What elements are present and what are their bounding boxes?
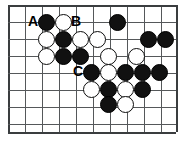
black-stone xyxy=(55,48,72,65)
board-edge-horizontal xyxy=(8,5,176,7)
white-stone xyxy=(89,31,106,48)
black-stone xyxy=(38,14,55,31)
board-edge-vertical xyxy=(8,5,10,132)
black-stone xyxy=(134,81,151,98)
black-stone xyxy=(100,81,117,98)
board-edge-vertical xyxy=(176,5,178,132)
white-stone xyxy=(38,31,55,48)
board-surface: ABC xyxy=(0,0,184,145)
white-stone xyxy=(38,48,55,65)
grid-line-horizontal xyxy=(8,56,176,57)
black-stone xyxy=(109,14,126,31)
black-stone xyxy=(72,48,89,65)
white-stone xyxy=(117,81,134,98)
white-stone xyxy=(100,64,117,81)
board-edge-horizontal xyxy=(8,132,176,134)
white-stone xyxy=(117,96,134,113)
grid-line-horizontal xyxy=(8,124,176,125)
marker-label-c: C xyxy=(71,64,85,78)
white-stone xyxy=(128,48,145,65)
black-stone xyxy=(117,64,134,81)
black-stone xyxy=(134,64,151,81)
white-stone xyxy=(100,48,117,65)
marker-label-a: A xyxy=(26,14,40,28)
white-stone xyxy=(83,81,100,98)
black-stone xyxy=(55,31,72,48)
marker-label-b: B xyxy=(69,14,83,28)
grid-line-horizontal xyxy=(8,107,176,108)
black-stone xyxy=(157,31,174,48)
black-stone xyxy=(151,64,168,81)
white-stone xyxy=(72,31,89,48)
black-stone xyxy=(140,31,157,48)
black-stone xyxy=(100,96,117,113)
black-stone xyxy=(83,64,100,81)
go-board-diagram: ABC xyxy=(0,0,184,145)
